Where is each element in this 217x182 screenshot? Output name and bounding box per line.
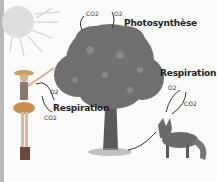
fox-respiration-label: Respiration	[160, 68, 216, 78]
human-co2-label: CO2	[44, 114, 57, 121]
photosynthesis-label: Photosynthèse	[124, 18, 197, 28]
tree-o2-label: O2	[114, 10, 123, 17]
sun-icon	[2, 6, 60, 56]
human-respiration-label: Respiration	[53, 103, 109, 113]
tree-co2-label: CO2	[86, 10, 99, 17]
tree-icon	[54, 24, 164, 156]
fox-o2-label: O2	[168, 84, 177, 91]
fox-icon	[158, 118, 206, 160]
human-o2-label: O2	[50, 88, 59, 95]
fox-co2-label: CO2	[184, 100, 197, 107]
